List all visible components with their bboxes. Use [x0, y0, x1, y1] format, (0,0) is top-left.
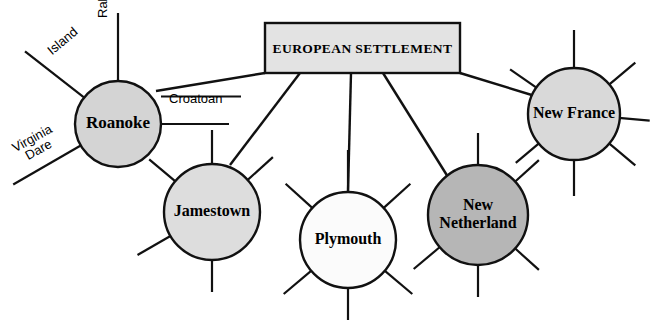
spoke-new-france-sw	[516, 143, 540, 163]
edge-label-croatoan: Croatoan	[169, 92, 222, 105]
node-label-jamestown: Jamestown	[174, 202, 251, 219]
node-plymouth[interactable]: Plymouth	[300, 192, 396, 288]
spoke-new-netherland-se	[514, 248, 539, 270]
spoke-roanoke-island	[25, 51, 85, 98]
spoke-new-netherland-ne	[514, 160, 539, 182]
spoke-jamestown-ne	[247, 157, 273, 181]
spoke-new-netherland-sw	[414, 247, 441, 270]
spoke-new-france-se	[609, 143, 636, 166]
european-settlement-box[interactable]: EUROPEAN SETTLEMENT	[265, 23, 460, 73]
node-roanoke[interactable]: Roanoke	[75, 81, 161, 167]
node-label-new-netherland: Netherland	[439, 214, 516, 231]
spoke-plymouth-se	[384, 270, 412, 294]
diagram-svg: EUROPEAN SETTLEMENT RoanokeJamestownPlym…	[0, 0, 655, 324]
spoke-new-france-nw	[510, 69, 537, 88]
node-label-plymouth: Plymouth	[315, 230, 382, 248]
diagram-canvas: EUROPEAN SETTLEMENT RoanokeJamestownPlym…	[0, 0, 655, 324]
spoke-new-france-e	[619, 118, 650, 121]
connector-box-to-new-france	[460, 73, 535, 96]
node-label-new-france: New France	[533, 104, 615, 121]
edge-label-raleigh: Raleigh	[96, 0, 109, 18]
spoke-jamestown-sw	[138, 236, 172, 256]
node-new-netherland[interactable]: NewNetherland	[428, 165, 528, 265]
connector-box-to-new-netherland	[383, 73, 448, 177]
node-new-france[interactable]: New France	[528, 68, 620, 160]
spoke-new-france-ne	[609, 63, 636, 86]
european-settlement-label: EUROPEAN SETTLEMENT	[273, 41, 453, 56]
connector-box-to-jamestown	[230, 73, 300, 165]
node-jamestown[interactable]: Jamestown	[164, 164, 260, 260]
node-label-new-netherland: New	[463, 196, 494, 213]
spoke-jamestown-nw	[149, 159, 176, 182]
spoke-plymouth-sw	[284, 270, 312, 294]
connector-box-to-plymouth	[348, 73, 351, 192]
connector-box-to-roanoke	[156, 73, 265, 91]
node-label-roanoke: Roanoke	[86, 113, 151, 132]
spoke-plymouth-ne	[383, 184, 411, 209]
spoke-plymouth-nw	[286, 184, 314, 209]
